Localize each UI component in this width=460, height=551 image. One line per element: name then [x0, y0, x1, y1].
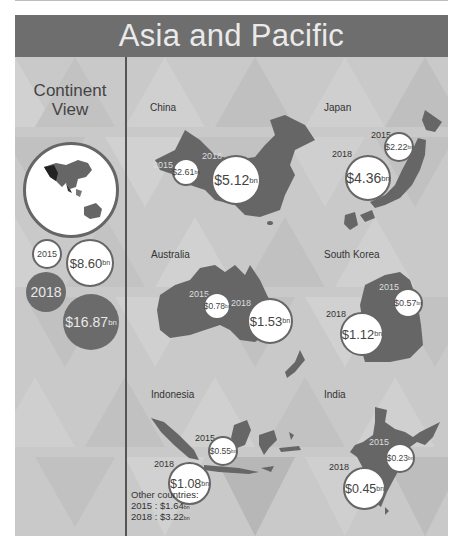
- continent-2015-value-bubble: $8.60bn: [66, 239, 114, 287]
- south-korea-2015-label: 2015: [379, 282, 399, 292]
- south-korea-2018-bubble: $1.12bn: [340, 312, 384, 356]
- south-korea-2015-bubble: $0.57bn: [393, 288, 423, 318]
- continent-2015-bubble: 2015: [32, 239, 62, 269]
- china-2015-label: 2015: [153, 160, 173, 170]
- continent-2018-bubble: 2018: [26, 272, 66, 312]
- country-name-india: India: [324, 389, 346, 400]
- continent-view-title: Continent View: [15, 81, 125, 119]
- china-2015-bubble: $2.61bn: [172, 158, 200, 186]
- japan-2018-bubble: $4.36bn: [345, 155, 391, 201]
- australia-2018-bubble: $1.53bn: [247, 298, 293, 344]
- india-2018-bubble: $0.45bn: [343, 467, 386, 510]
- india-2015-bubble: $0.23bn: [385, 443, 415, 473]
- country-name-china: China: [150, 102, 176, 113]
- continent-2018-value-bubble: $16.87bn: [63, 294, 119, 350]
- country-name-south-korea: South Korea: [324, 249, 380, 260]
- china-2018-label: 2018: [202, 151, 222, 161]
- indonesia-2015-bubble: $0.55bn: [208, 436, 238, 466]
- indonesia-2018-label: 2018: [154, 459, 174, 469]
- page-title: Asia and Pacific: [15, 15, 448, 57]
- country-name-indonesia: Indonesia: [151, 389, 194, 400]
- australia-2015-bubble: $0.78bn: [203, 292, 231, 320]
- south-korea-2018-label: 2018: [326, 309, 346, 319]
- australia-2018-label: 2018: [231, 298, 251, 308]
- india-2015-label: 2015: [369, 437, 389, 447]
- india-2018-label: 2018: [329, 462, 349, 472]
- other-countries-note: Other countries: 2015 : $1.64bn 2018 : $…: [131, 490, 199, 524]
- country-name-australia: Australia: [151, 249, 190, 260]
- infographic-panel: Asia and Pacific Continent View 2015 $8.…: [15, 15, 448, 536]
- top-rule: [15, 0, 448, 1]
- china-2018-bubble: $5.12bn: [211, 155, 261, 205]
- japan-2015-bubble: $2.22bn: [384, 132, 414, 162]
- japan-2018-label: 2018: [332, 149, 352, 159]
- column-divider: [125, 57, 127, 536]
- globe-map-icon: [23, 142, 119, 238]
